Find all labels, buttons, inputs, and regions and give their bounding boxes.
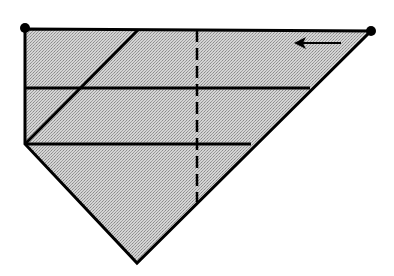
top-right-corner-dot-icon [366, 26, 376, 36]
top-left-corner-dot-icon [20, 23, 30, 33]
fold-diagram [0, 0, 394, 276]
